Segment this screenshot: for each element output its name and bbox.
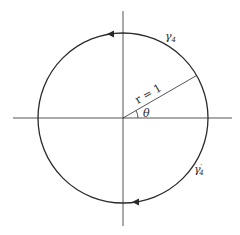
gamma4-prime-label: γ′4 (194, 163, 204, 177)
radius-label: r = 1 (133, 81, 164, 106)
gamma4-label: γ4 (165, 30, 176, 44)
unit-circle-diagram: r = 1 θ γ4 γ′4 (0, 0, 240, 235)
arrow-bottom-icon (132, 199, 139, 206)
arrow-top-icon (107, 31, 114, 38)
angle-arc (136, 111, 138, 119)
theta-label: θ (143, 107, 150, 120)
radius-label-text: r = 1 (133, 81, 164, 106)
